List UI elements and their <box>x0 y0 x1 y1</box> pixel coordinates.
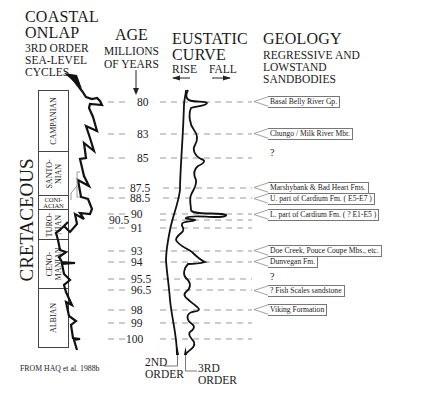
sandbody-label: ? Fish Scales sandstone <box>268 285 345 297</box>
coastal-onlap-curve <box>56 78 102 350</box>
second-order-label-2: ORDER <box>145 368 184 380</box>
age-tick: 100 <box>126 333 143 345</box>
pointer-tag-icon <box>253 128 269 139</box>
age-tick: 90 <box>131 208 143 220</box>
pointer-tag-icon <box>253 304 269 315</box>
age-tick: 85 <box>137 152 149 164</box>
second-order-label-1: 2ND <box>145 356 167 368</box>
sandbody-label: Chungo / Milk River Mbr. <box>268 128 353 140</box>
age-tick: 90.5 <box>109 214 129 226</box>
pointer-tag-icon <box>253 245 269 256</box>
age-tick: 96.5 <box>131 284 151 296</box>
sandbody-label: L. part of Cardium Fm. ( ? E1-E5 ) <box>268 209 379 221</box>
third-order-label-2: ORDER <box>198 374 237 386</box>
pointer-tag-icon <box>253 182 269 193</box>
pointer-tag-icon <box>253 256 269 267</box>
age-tick: 99 <box>131 317 143 329</box>
sandbody-label: U. part of Cardium Fm. ( E5-E7 ) <box>268 193 375 205</box>
age-tick: 83 <box>137 128 149 140</box>
pointer-tag-icon <box>253 193 269 204</box>
source-citation: FROM HAQ et al. 1988b <box>20 364 99 373</box>
question-mark: ? <box>270 147 274 158</box>
rise-fall-arrows <box>172 76 231 81</box>
sandbody-label: Dunvegan Fm. <box>268 256 318 268</box>
age-down-arrow <box>133 70 139 95</box>
age-tick: 88.5 <box>130 192 150 204</box>
sandbody-label: Basal Belly River Gp. <box>268 96 340 108</box>
pointer-tag-icon <box>253 96 269 107</box>
pointer-tag-icon <box>253 209 269 220</box>
question-mark: ? <box>270 271 274 282</box>
sandbody-label: Viking Formation <box>268 304 327 316</box>
age-gridlines <box>108 102 252 339</box>
age-tick: 98 <box>131 304 143 316</box>
age-tick: 91 <box>131 222 143 234</box>
pointer-tag-icon <box>253 285 269 296</box>
third-order-label-1: 3RD <box>198 362 220 374</box>
age-tick: 94 <box>131 256 143 268</box>
age-tick: 80 <box>137 96 149 108</box>
